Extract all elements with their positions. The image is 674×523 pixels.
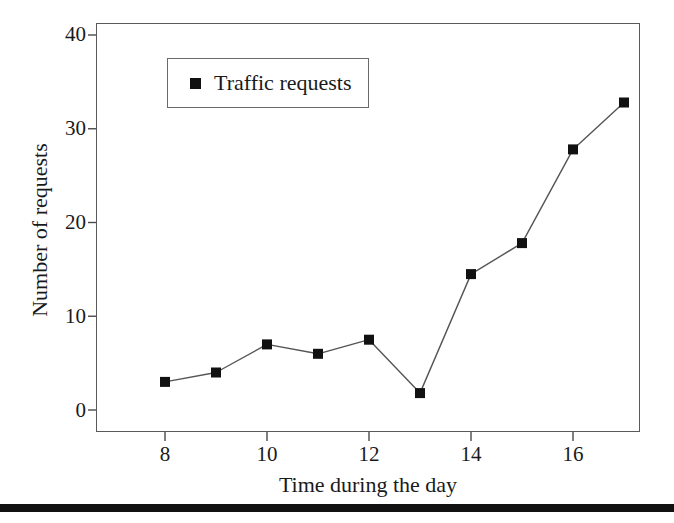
x-tick-label: 16 [543,444,603,465]
x-axis-title: Time during the day [96,472,640,498]
x-tick-label: 8 [135,444,195,465]
y-tick-label: 0 [42,400,86,421]
x-tick-label: 14 [441,444,501,465]
chart-legend: Traffic requests [167,58,369,108]
x-tick-label: 10 [237,444,297,465]
y-axis-title: Number of requests [27,105,53,355]
chart-figure: 40 30 20 10 0 8 10 12 14 16 Number of re… [0,0,674,523]
y-tick-label: 40 [42,24,86,45]
legend-square-marker-icon [190,78,201,89]
x-axis-tick-labels: 8 10 12 14 16 [0,444,674,474]
bottom-divider-rule [0,504,674,512]
legend-entry-label: Traffic requests [214,70,351,96]
x-tick-label: 12 [339,444,399,465]
